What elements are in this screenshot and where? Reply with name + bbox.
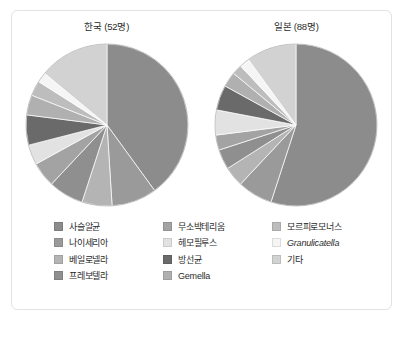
pie-cell-japan <box>202 37 392 213</box>
legend-swatch-icon <box>54 271 63 280</box>
legend-item-label: 헤모필루스 <box>178 236 217 249</box>
legend-item-label: 무소박테리움 <box>178 220 225 233</box>
legend-item-label: 방선균 <box>178 253 201 266</box>
legend-item: 헤모필루스 <box>163 237 272 249</box>
pie-chart-korea <box>24 42 190 208</box>
legend-swatch-icon <box>272 238 281 247</box>
legend-item-label: 나이세리아 <box>69 236 108 249</box>
legend-swatch-icon <box>163 238 172 247</box>
legend-item: 무소박테리움 <box>163 220 272 232</box>
pie-cell-korea <box>12 37 202 213</box>
chart-legend: 사슬알균 나이세리아 베일로넬라 프레보텔라 무소박테리움 헤모필루 <box>54 220 381 282</box>
legend-item: 기타 <box>272 253 381 265</box>
legend-item-label: Granulicatella <box>287 238 339 248</box>
legend-column-3: 모르피로모너스 Granulicatella 기타 <box>272 220 381 282</box>
legend-swatch-icon <box>272 255 281 264</box>
legend-column-2: 무소박테리움 헤모필루스 방선균 Gemella <box>163 220 272 282</box>
legend-swatch-icon <box>54 255 63 264</box>
legend-item-label: 베일로넬라 <box>69 253 108 266</box>
legend-swatch-icon <box>54 238 63 247</box>
legend-swatch-icon <box>163 222 172 231</box>
chart-title-japan: 일본 (88명) <box>202 19 392 33</box>
legend-item-label: 모르피로모너스 <box>287 220 342 233</box>
legend-swatch-icon <box>54 222 63 231</box>
legend-item-label: 프레보텔라 <box>69 269 108 282</box>
legend-item: 프레보텔라 <box>54 270 163 282</box>
legend-item-label: 사슬알균 <box>69 220 100 233</box>
chart-title-korea: 한국 (52명) <box>12 19 202 33</box>
pie-charts-area <box>12 37 391 213</box>
legend-item: Gemella <box>163 270 272 282</box>
legend-swatch-icon <box>163 271 172 280</box>
chart-titles-row: 한국 (52명) 일본 (88명) <box>12 19 391 33</box>
figure-card: 한국 (52명) 일본 (88명) 사슬알균 나이세리아 베일로넬라 <box>11 10 392 310</box>
legend-item: 베일로넬라 <box>54 253 163 265</box>
legend-spacer <box>272 270 381 282</box>
legend-item: 방선균 <box>163 253 272 265</box>
legend-item: 사슬알균 <box>54 220 163 232</box>
legend-item: 모르피로모너스 <box>272 220 381 232</box>
legend-item-label: 기타 <box>287 253 303 266</box>
legend-swatch-icon <box>163 255 172 264</box>
legend-item-label: Gemella <box>178 271 210 281</box>
legend-swatch-icon <box>272 222 281 231</box>
legend-item: 나이세리아 <box>54 237 163 249</box>
pie-chart-japan <box>213 42 379 208</box>
legend-item: Granulicatella <box>272 237 381 249</box>
legend-column-1: 사슬알균 나이세리아 베일로넬라 프레보텔라 <box>54 220 163 282</box>
